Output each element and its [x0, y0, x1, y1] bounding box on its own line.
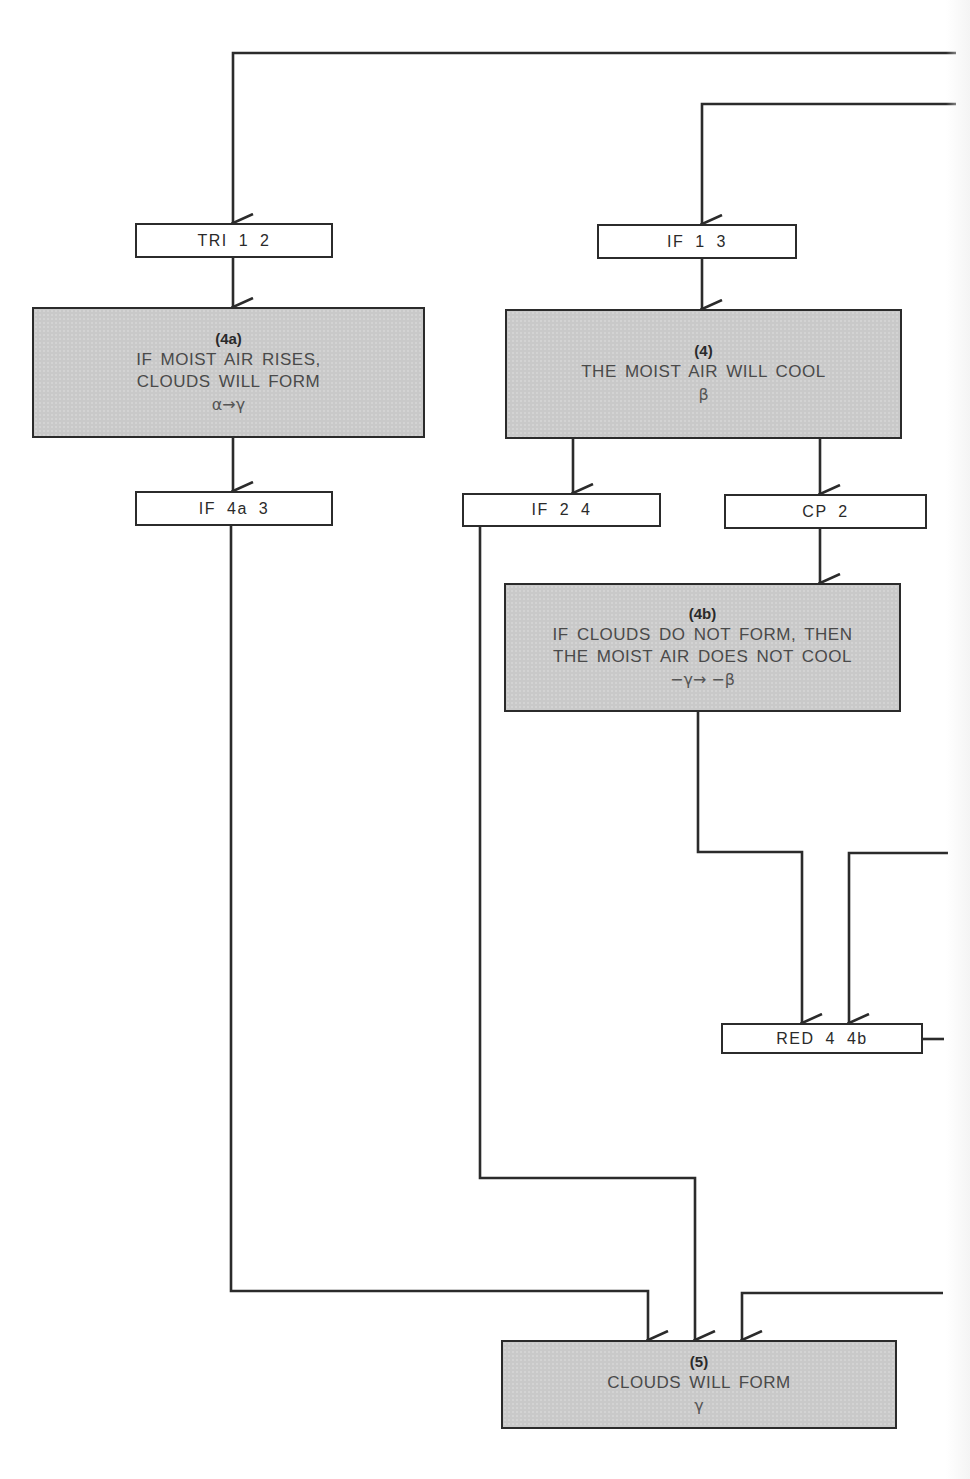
statement-number: (5): [690, 1352, 708, 1372]
statement-box-5: (5) CLOUDS WILL FORM γ: [501, 1340, 897, 1429]
statement-text-line2: CLOUDS WILL FORM: [137, 371, 320, 393]
edge-in-to-if13: [702, 104, 956, 224]
statement-number: (4a): [215, 329, 242, 349]
edge-in-to-red: [849, 853, 948, 1023]
statement-number: (4): [694, 341, 712, 361]
statement-text-line1: CLOUDS WILL FORM: [607, 1372, 790, 1394]
statement-text-line2: THE MOIST AIR DOES NOT COOL: [553, 646, 852, 668]
rule-label: IF 1 3: [667, 233, 727, 251]
rule-label: RED 4 4b: [776, 1030, 867, 1048]
statement-box-4: (4) THE MOIST AIR WILL COOL β: [505, 309, 902, 439]
statement-formula: β: [698, 383, 708, 407]
statement-formula: −γ→ −β: [670, 668, 735, 692]
statement-text-line1: THE MOIST AIR WILL COOL: [581, 361, 826, 383]
page-edge-shadow: [946, 0, 970, 1479]
edge-4b-to-red: [698, 711, 802, 1023]
statement-number: (4b): [689, 604, 717, 624]
rule-box-if-1-3: IF 1 3: [597, 224, 797, 259]
statement-box-4b: (4b) IF CLOUDS DO NOT FORM, THEN THE MOI…: [504, 583, 901, 712]
edge-in-to-tri: [233, 53, 956, 223]
rule-box-red-4-4b: RED 4 4b: [721, 1023, 923, 1054]
rule-label: TRI 1 2: [198, 232, 271, 250]
rule-box-tri-1-2: TRI 1 2: [135, 223, 333, 258]
edge-in-to-5: [742, 1293, 943, 1340]
rule-label: CP 2: [802, 503, 848, 521]
statement-text-line1: IF MOIST AIR RISES,: [136, 349, 320, 371]
connector-lines: [0, 0, 970, 1479]
rule-label: IF 4a 3: [199, 500, 269, 518]
statement-formula: α→γ: [212, 393, 245, 417]
rule-label: IF 2 4: [532, 501, 592, 519]
statement-formula: γ: [694, 1394, 703, 1418]
statement-box-4a: (4a) IF MOIST AIR RISES, CLOUDS WILL FOR…: [32, 307, 425, 438]
rule-box-if-2-4: IF 2 4: [462, 493, 661, 527]
rule-box-cp-2: CP 2: [724, 494, 927, 529]
statement-text-line1: IF CLOUDS DO NOT FORM, THEN: [553, 624, 853, 646]
rule-box-if-4a-3: IF 4a 3: [135, 491, 333, 526]
